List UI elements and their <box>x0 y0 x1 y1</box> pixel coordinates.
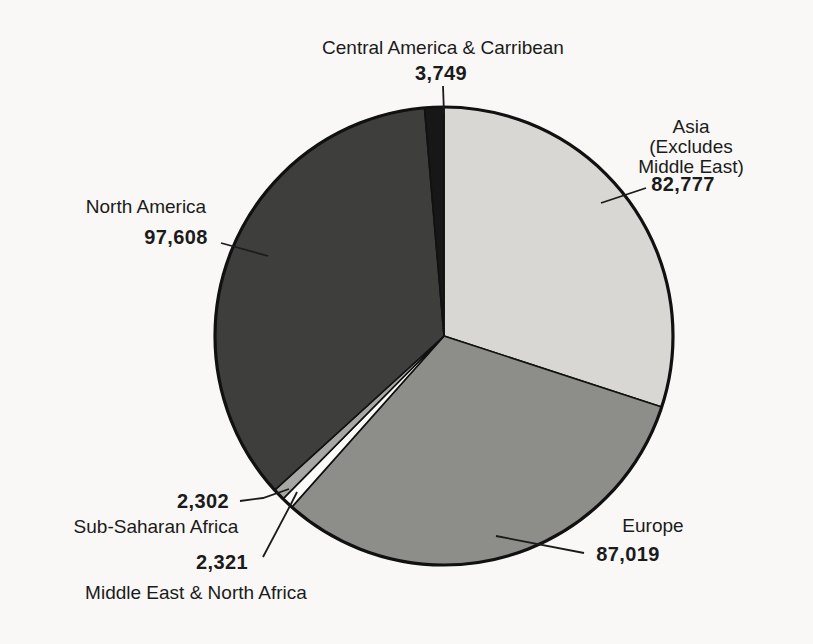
callout-label-central-america: Central America & Carribean <box>322 38 564 58</box>
leader-line-mena <box>263 492 297 557</box>
callout-label-north-america: North America <box>86 197 206 217</box>
callout-label-europe: Europe <box>622 516 683 536</box>
pie-chart-figure: Central America & Carribean 3,749 Asia (… <box>0 0 813 644</box>
callout-label-asia: Asia (Excludes Middle East) <box>630 117 752 177</box>
callout-value-middle-east-north-africa: 2,321 <box>196 552 248 573</box>
leader-line-central_america <box>443 86 444 114</box>
callout-value-north-america: 97,608 <box>144 227 208 248</box>
callout-label-middle-east-north-africa: Middle East & North Africa <box>85 583 307 603</box>
pie-chart-canvas <box>0 0 813 644</box>
callout-value-europe: 87,019 <box>596 544 660 565</box>
pie-group <box>215 107 673 565</box>
callout-label-sub-saharan-africa: Sub-Saharan Africa <box>74 517 239 537</box>
callout-value-asia: 82,777 <box>651 174 715 195</box>
callout-value-central-america: 3,749 <box>415 63 467 84</box>
callout-value-sub-saharan-africa: 2,302 <box>177 491 229 512</box>
